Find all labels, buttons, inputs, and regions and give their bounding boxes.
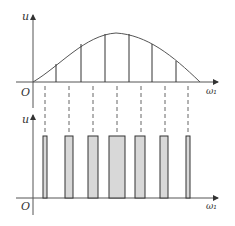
pulse [186,136,190,198]
pulse [43,136,47,198]
bottom-y-axis-label: u [22,114,29,125]
pulse [65,136,73,198]
pulse [109,136,125,198]
pulse [160,136,168,198]
pulse [135,136,145,198]
sample-lines [56,34,176,82]
bottom-origin-label: O [21,201,30,212]
pwm-pulses [43,136,190,198]
bottom-x-axis-label: ω₁ [206,202,217,211]
pwm-diagram [0,0,235,226]
top-x-axis-label: ω₁ [206,87,217,96]
sine-curve [33,33,200,82]
top-origin-label: O [21,87,30,98]
top-y-axis-label: u [22,11,29,22]
projection-lines [45,86,188,135]
pulse [88,136,98,198]
